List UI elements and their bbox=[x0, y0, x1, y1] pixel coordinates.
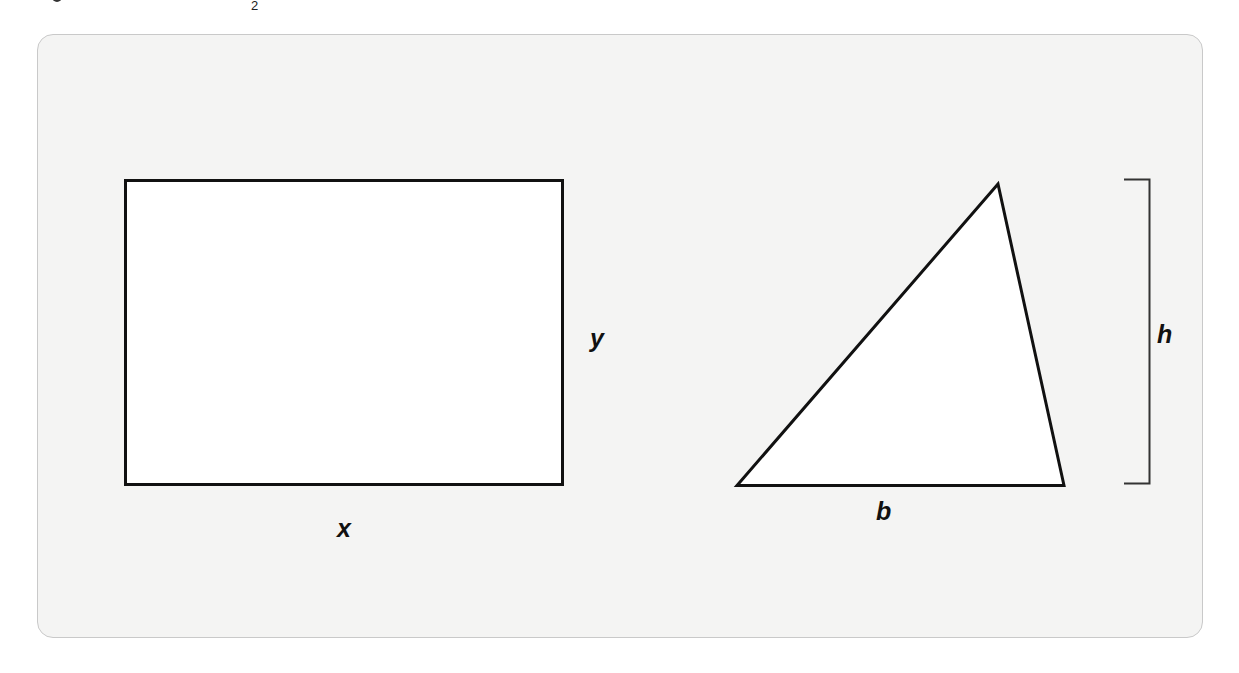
triangle-height-label: h bbox=[1157, 322, 1172, 347]
geometry-figure bbox=[0, 0, 1239, 673]
rectangle-shape bbox=[126, 181, 563, 485]
rectangle-height-label: y bbox=[590, 326, 604, 351]
rectangle-width-label: x bbox=[337, 516, 351, 541]
triangle-base-label: b bbox=[876, 499, 891, 524]
height-bracket bbox=[1124, 180, 1150, 484]
triangle-shape bbox=[737, 184, 1064, 486]
